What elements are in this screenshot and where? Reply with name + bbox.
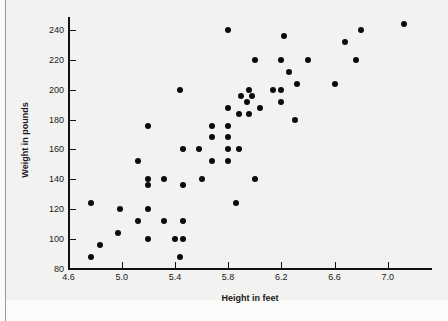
x-tick-mark	[175, 262, 176, 268]
y-tick-label: 220	[36, 55, 64, 65]
data-point	[145, 176, 151, 182]
data-point	[246, 111, 252, 117]
data-point	[135, 218, 141, 224]
x-tick-label: 6.2	[264, 272, 298, 282]
data-point	[177, 254, 183, 260]
data-point	[286, 69, 292, 75]
data-point	[278, 57, 284, 63]
y-tick-mark	[70, 239, 76, 240]
data-point	[117, 206, 123, 212]
data-point	[180, 146, 186, 152]
data-point	[278, 99, 284, 105]
x-tick-label: 5.0	[105, 272, 139, 282]
x-tick-label: 5.8	[211, 272, 245, 282]
y-tick-label: 120	[36, 204, 64, 214]
data-point	[145, 236, 151, 242]
y-tick-label: 240	[36, 25, 64, 35]
y-tick-label: 160	[36, 144, 64, 154]
x-tick-mark	[122, 262, 123, 268]
y-tick-label: 180	[36, 115, 64, 125]
data-point	[294, 81, 300, 87]
data-point	[246, 87, 252, 93]
y-tick-mark	[70, 269, 76, 270]
y-tick-mark	[70, 209, 76, 210]
x-tick-mark	[228, 262, 229, 268]
data-point	[161, 218, 167, 224]
data-point	[305, 57, 311, 63]
y-tick-mark	[70, 149, 76, 150]
data-point	[172, 236, 178, 242]
x-tick-mark	[388, 262, 389, 268]
data-point	[281, 33, 287, 39]
data-point	[145, 182, 151, 188]
y-axis-title: Weight in pounds	[20, 70, 30, 210]
y-tick-label: 140	[36, 174, 64, 184]
x-tick-mark	[69, 262, 70, 268]
data-point	[225, 123, 231, 129]
data-point	[135, 158, 141, 164]
data-point	[97, 242, 103, 248]
data-point	[236, 111, 242, 117]
data-point	[225, 158, 231, 164]
data-point	[257, 105, 263, 111]
data-point	[161, 176, 167, 182]
data-point	[180, 218, 186, 224]
data-point	[401, 21, 407, 27]
data-point	[88, 254, 94, 260]
x-axis-line	[68, 268, 432, 270]
data-point	[225, 105, 231, 111]
data-point	[225, 134, 231, 140]
data-point	[115, 230, 121, 236]
y-tick-label: 200	[36, 85, 64, 95]
data-point	[209, 158, 215, 164]
y-axis-line	[68, 17, 70, 269]
data-point	[209, 134, 215, 140]
data-point	[252, 57, 258, 63]
data-point	[238, 93, 244, 99]
data-point	[252, 176, 258, 182]
plot-area: 80100120140160180200220240 4.65.05.45.86…	[0, 0, 448, 321]
data-point	[209, 123, 215, 129]
data-point	[358, 27, 364, 33]
data-point	[292, 117, 298, 123]
data-point	[244, 99, 250, 105]
data-point	[236, 146, 242, 152]
data-point	[225, 27, 231, 33]
data-point	[180, 182, 186, 188]
data-point	[177, 87, 183, 93]
y-tick-label: 100	[36, 234, 64, 244]
data-point	[225, 146, 231, 152]
data-point	[145, 206, 151, 212]
data-point	[270, 87, 276, 93]
x-tick-mark	[281, 262, 282, 268]
y-tick-mark	[70, 179, 76, 180]
data-point	[278, 87, 284, 93]
x-tick-label: 6.6	[318, 272, 352, 282]
data-point	[145, 123, 151, 129]
data-point	[249, 93, 255, 99]
y-tick-mark	[70, 90, 76, 91]
data-point	[196, 146, 202, 152]
x-tick-label: 7.0	[371, 272, 405, 282]
data-point	[88, 200, 94, 206]
x-tick-label: 5.4	[158, 272, 192, 282]
y-tick-mark	[70, 30, 76, 31]
data-point	[180, 236, 186, 242]
x-tick-label: 4.6	[52, 272, 86, 282]
x-axis-title: Height in feet	[68, 293, 432, 303]
y-tick-mark	[70, 60, 76, 61]
data-point	[342, 39, 348, 45]
scatter-plot-figure: 80100120140160180200220240 4.65.05.45.86…	[0, 0, 448, 321]
x-tick-mark	[335, 262, 336, 268]
data-point	[233, 200, 239, 206]
data-point	[353, 57, 359, 63]
y-tick-mark	[70, 120, 76, 121]
data-point	[332, 81, 338, 87]
data-point	[199, 176, 205, 182]
